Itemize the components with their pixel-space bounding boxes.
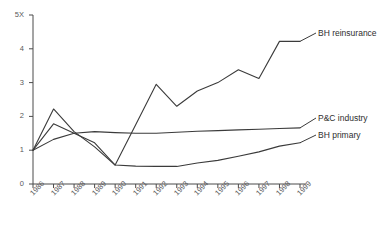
series-label-bh-reinsurance: BH reinsurance xyxy=(318,28,377,38)
line-chart: 012345X 19861987198819891990199119921993… xyxy=(0,0,391,230)
y-axis-tick-label: 0 xyxy=(2,179,24,188)
y-axis-tick-label: 1 xyxy=(2,145,24,154)
series-line-bh-reinsurance xyxy=(33,41,300,165)
leader-line-bh-reinsurance xyxy=(300,33,316,41)
y-axis-tick-label: 2 xyxy=(2,111,24,120)
y-axis-tick-label: 3 xyxy=(2,78,24,87)
series-label-pc-industry: P&C industry xyxy=(318,113,368,123)
leader-line-bh-primary xyxy=(300,135,316,143)
y-tick-marks xyxy=(29,15,33,184)
y-axis-tick-label: 5X xyxy=(2,10,24,19)
series-label-bh-primary: BH primary xyxy=(318,130,361,140)
axes xyxy=(29,15,306,188)
data-series-group xyxy=(33,41,300,166)
label-leader-lines xyxy=(300,33,316,143)
y-axis-tick-label: 4 xyxy=(2,44,24,53)
leader-line-pc-industry xyxy=(300,118,316,128)
